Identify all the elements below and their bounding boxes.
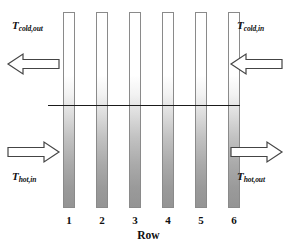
cold-stream-outlet-arrow xyxy=(8,52,60,76)
hot-stream-inlet-arrow xyxy=(8,140,60,164)
label-hot-outlet-temperature: Thot,out xyxy=(237,170,265,184)
row-tick-6: 6 xyxy=(226,214,242,226)
label-hot-outlet-symbol: T xyxy=(237,170,244,182)
label-cold-inlet-symbol: T xyxy=(237,19,244,31)
label-cold-inlet-temperature: Tcold,in xyxy=(237,19,264,33)
heat-exchanger-row-diagram: Tcold,out Tcold,in Thot,in Thot,out 1 2 … xyxy=(0,0,297,251)
row-bar-1 xyxy=(63,12,75,208)
hot-stream-outlet-arrow xyxy=(231,140,283,164)
row-tick-1: 1 xyxy=(61,214,77,226)
label-cold-outlet-temperature: Tcold,out xyxy=(12,19,43,33)
row-bar-3 xyxy=(129,12,141,208)
row-bar-5 xyxy=(195,12,207,208)
label-cold-outlet-symbol: T xyxy=(12,19,19,31)
label-cold-inlet-subscript: cold,in xyxy=(244,24,264,33)
label-hot-inlet-temperature: Thot,in xyxy=(12,170,36,184)
row-bar-2 xyxy=(96,12,108,208)
label-hot-inlet-subscript: hot,in xyxy=(19,175,37,184)
label-cold-outlet-subscript: cold,out xyxy=(19,24,43,33)
cold-stream-inlet-arrow xyxy=(231,52,283,76)
center-divider-line xyxy=(48,105,240,106)
row-tick-2: 2 xyxy=(94,214,110,226)
row-bar-4 xyxy=(162,12,174,208)
x-axis-label: Row xyxy=(0,229,297,241)
row-tick-4: 4 xyxy=(160,214,176,226)
row-tick-3: 3 xyxy=(127,214,143,226)
label-hot-outlet-subscript: hot,out xyxy=(244,175,265,184)
label-hot-inlet-symbol: T xyxy=(12,170,19,182)
row-tick-5: 5 xyxy=(193,214,209,226)
